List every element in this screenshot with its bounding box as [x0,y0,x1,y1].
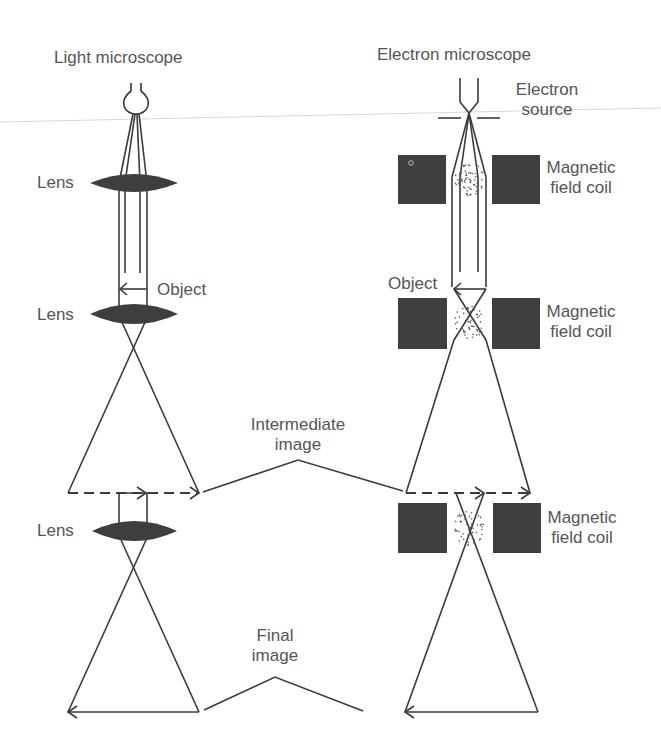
electron-beam-middle [406,340,530,493]
intermediate-image-label-line2: image [251,435,346,455]
light-rays-middle [68,320,199,493]
light-microscope-column [68,83,199,718]
intermediate-image-label-line1: Intermediate [251,415,346,435]
magnetic-coil-3-left [398,503,447,553]
electron-microscope-title: Electron microscope [377,45,531,65]
object-arrow-light [120,283,147,295]
lens-1 [90,174,178,192]
coil-label-2: Magnetic field coil [547,302,616,342]
electron-source-label: Electron source [516,80,578,120]
light-rays-upper [119,114,147,310]
coil-label-1-line2: field coil [547,178,616,198]
coil-label-2-line2: field coil [547,322,616,342]
coil-label-3-line2: field coil [548,528,617,548]
magnetic-field-dots-3 [454,511,484,546]
electron-source-label-line2: source [516,100,578,120]
coil-label-2-line1: Magnetic [547,302,616,322]
magnetic-coil-1-left [398,155,446,204]
electron-beam-upper [452,113,486,287]
final-image-pointer [204,677,363,711]
object-label-light: Object [157,280,206,300]
lens-label-2: Lens [37,305,74,325]
final-image-label-line1: Final [252,626,298,646]
light-microscope-title: Light microscope [54,48,183,68]
light-bulb-icon [124,83,149,114]
intermediate-image-electron [406,487,530,499]
coil-label-1-line1: Magnetic [547,158,616,178]
coil-label-3: Magnetic field coil [548,508,617,548]
magnetic-coil-2-left [398,298,447,349]
lens-3 [92,521,177,541]
magnetic-coil-2-right [492,298,540,349]
electron-source-label-line1: Electron [516,80,578,100]
electron-microscope-column [398,78,541,718]
final-image-label: Final image [252,626,298,666]
magnetic-field-dots-1 [455,165,484,197]
magnetic-coil-3-right [493,503,541,553]
object-label-electron: Object [388,274,437,294]
light-rays-final [68,540,199,718]
magnetic-coil-1-right [492,155,540,204]
coil-label-1: Magnetic field coil [547,158,616,198]
intermediate-image-label: Intermediate image [251,415,346,455]
lens-label-1: Lens [37,173,74,193]
intermediate-image-pointer [203,460,403,492]
lens-label-3: Lens [37,521,74,541]
coil-label-3-line1: Magnetic [548,508,617,528]
lens-2 [90,304,178,324]
final-image-label-line2: image [252,646,298,666]
